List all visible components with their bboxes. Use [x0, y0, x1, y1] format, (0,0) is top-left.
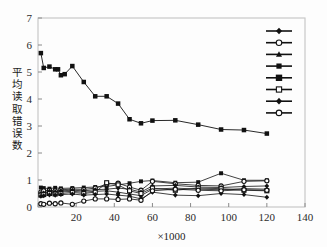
data-point-marker: [53, 202, 57, 206]
x-tick-label: 60: [147, 211, 159, 223]
data-point-marker: [82, 80, 87, 85]
x-tick-label: 20: [71, 211, 83, 223]
data-point-marker: [116, 101, 121, 106]
x-axis-label: ×1000: [157, 230, 186, 242]
data-point-marker: [265, 188, 269, 192]
data-point-marker: [127, 197, 131, 201]
data-point-marker: [150, 118, 155, 123]
data-point-marker: [139, 192, 143, 196]
y-axis-label-char: 数: [12, 139, 23, 151]
data-point-marker: [128, 189, 132, 193]
data-point-marker: [139, 121, 144, 126]
x-tick-label: 140: [297, 211, 314, 223]
data-point-marker: [70, 202, 74, 206]
data-point-marker: [219, 127, 224, 132]
data-point-marker: [59, 201, 63, 205]
data-point-marker: [105, 181, 109, 185]
line-chart: 01234567 20406080100120140 平均读取错误数 ×1000: [0, 0, 327, 247]
data-point-marker: [196, 188, 200, 192]
data-point-marker: [139, 179, 143, 183]
data-point-marker: [47, 64, 52, 69]
y-tick-label: 6: [27, 39, 33, 51]
data-point-marker: [93, 197, 97, 201]
legend-marker: [276, 87, 281, 92]
data-point-marker: [70, 64, 75, 68]
y-tick-label: 4: [27, 93, 33, 105]
data-point-marker: [116, 183, 120, 187]
y-tick-label: 1: [27, 174, 33, 186]
data-point-marker: [47, 201, 51, 205]
data-point-marker: [62, 72, 66, 77]
data-point-marker: [139, 198, 143, 202]
data-point-marker: [196, 122, 201, 127]
data-point-marker: [219, 189, 223, 193]
y-tick-label: 0: [27, 201, 33, 213]
data-point-marker: [127, 117, 131, 122]
data-point-marker: [42, 202, 46, 206]
legend-marker: [276, 110, 282, 116]
data-point-marker: [173, 187, 177, 191]
y-axis-label-char: 取: [12, 103, 23, 115]
data-point-marker: [242, 179, 246, 183]
y-axis-label-char: 平: [12, 66, 22, 78]
data-point-marker: [242, 128, 247, 133]
y-tick-label: 2: [27, 147, 33, 159]
data-point-marker: [105, 197, 109, 201]
data-point-marker: [150, 179, 154, 183]
legend-marker: [276, 75, 282, 81]
chart-background: [0, 0, 327, 247]
y-axis-label: 平均读取错误数: [12, 66, 23, 151]
data-point-marker: [265, 179, 269, 183]
x-tick-label: 80: [185, 211, 197, 223]
x-tick-label: 40: [109, 211, 121, 223]
y-axis-label-char: 错: [12, 115, 23, 127]
data-point-marker: [219, 171, 223, 175]
legend-marker: [276, 40, 282, 46]
y-axis-label-char: 读: [12, 90, 23, 102]
y-axis-label-char: 误: [12, 127, 23, 139]
y-tick-label: 5: [27, 66, 33, 78]
data-point-marker: [104, 94, 109, 99]
data-point-marker: [116, 197, 120, 201]
data-point-marker: [242, 188, 246, 192]
data-point-marker: [93, 94, 98, 99]
data-point-marker: [41, 66, 46, 71]
y-tick-label: 3: [27, 120, 33, 132]
y-axis-label-char: 均: [12, 78, 22, 90]
data-point-marker: [150, 189, 154, 193]
x-tick-label: 100: [220, 211, 237, 223]
data-point-marker: [265, 131, 270, 136]
data-point-marker: [39, 51, 44, 56]
data-point-marker: [173, 118, 178, 123]
x-tick-label: 120: [259, 211, 276, 223]
y-tick-label: 7: [27, 12, 33, 24]
legend-marker: [276, 63, 281, 68]
data-point-marker: [56, 67, 61, 72]
data-point-marker: [82, 199, 86, 203]
chart-figure: 01234567 20406080100120140 平均读取错误数 ×1000: [0, 0, 327, 247]
